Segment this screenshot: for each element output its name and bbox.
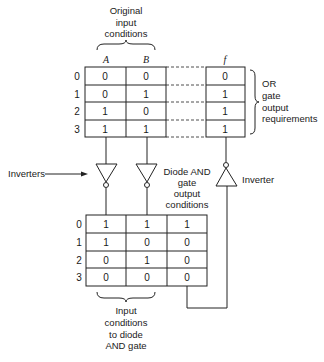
or-gate-label-4: requirements [262, 113, 318, 124]
top-cell: 1 [143, 124, 149, 135]
top-cell: 1 [222, 124, 228, 135]
bottom-row-index-0: 0 [76, 219, 82, 230]
top-cell: 1 [222, 89, 228, 100]
bottom-cell: 0 [144, 237, 150, 248]
or-gate-label-1: OR [262, 78, 276, 89]
top-row-index-2: 2 [74, 106, 80, 117]
inverters-label: Inverters [8, 168, 45, 179]
bottom-cell: 1 [144, 255, 150, 266]
header-a: A [102, 54, 110, 65]
top-cell: 1 [143, 89, 149, 100]
inverter-a-icon [96, 137, 117, 215]
bottom-row-index-1: 1 [76, 237, 82, 248]
top-brace [97, 40, 155, 50]
top-table [85, 67, 245, 137]
input-diode-label-4: AND gate [105, 340, 146, 351]
top-cell: 0 [222, 71, 228, 82]
top-cell: 0 [143, 71, 149, 82]
original-input-label-3: conditions [105, 28, 148, 39]
top-cell: 0 [143, 106, 149, 117]
bottom-cell: 0 [184, 255, 190, 266]
header-f: f [224, 54, 228, 65]
bottom-cell: 0 [184, 272, 190, 283]
or-gate-label-2: gate [262, 90, 281, 101]
top-row-index-1: 1 [74, 89, 80, 100]
input-diode-label-2: conditions [105, 317, 148, 328]
arrow-icon [45, 172, 88, 177]
diode-and-label-4: conditions [166, 199, 209, 210]
or-from-and-diagram: Original input conditions A B f 0 1 2 3 … [0, 0, 324, 362]
header-b: B [143, 54, 149, 65]
diode-and-label-3: output [174, 188, 201, 199]
or-gate-label-3: output [262, 102, 289, 113]
inverter-b-icon [136, 137, 157, 215]
top-row-index-3: 3 [74, 124, 80, 135]
bottom-cell: 1 [144, 219, 150, 230]
output-inverter-icon [187, 137, 237, 308]
bottom-row-index-2: 2 [76, 255, 82, 266]
bottom-cell: 0 [103, 255, 109, 266]
top-cell: 0 [102, 71, 108, 82]
input-diode-label-3: to diode [109, 329, 143, 340]
diode-and-label-1: Diode AND [164, 166, 211, 177]
top-cell: 1 [102, 106, 108, 117]
bottom-cell: 0 [144, 272, 150, 283]
bottom-cell: 0 [103, 272, 109, 283]
top-cell: 1 [102, 124, 108, 135]
bottom-cell: 1 [184, 219, 190, 230]
bottom-cell: 1 [103, 219, 109, 230]
right-brace [250, 70, 259, 134]
bottom-brace [97, 292, 155, 302]
inverter-label: Inverter [242, 174, 274, 185]
top-cell: 1 [222, 106, 228, 117]
input-diode-label-1: Input [115, 305, 136, 316]
bottom-row-index-3: 3 [76, 272, 82, 283]
top-cell: 0 [102, 89, 108, 100]
bottom-cell: 1 [103, 237, 109, 248]
original-input-label-1: Original [110, 5, 143, 16]
bottom-cell: 0 [184, 237, 190, 248]
top-row-index-0: 0 [74, 71, 80, 82]
original-input-label-2: input [116, 17, 137, 28]
diode-and-label-2: gate [178, 177, 197, 188]
